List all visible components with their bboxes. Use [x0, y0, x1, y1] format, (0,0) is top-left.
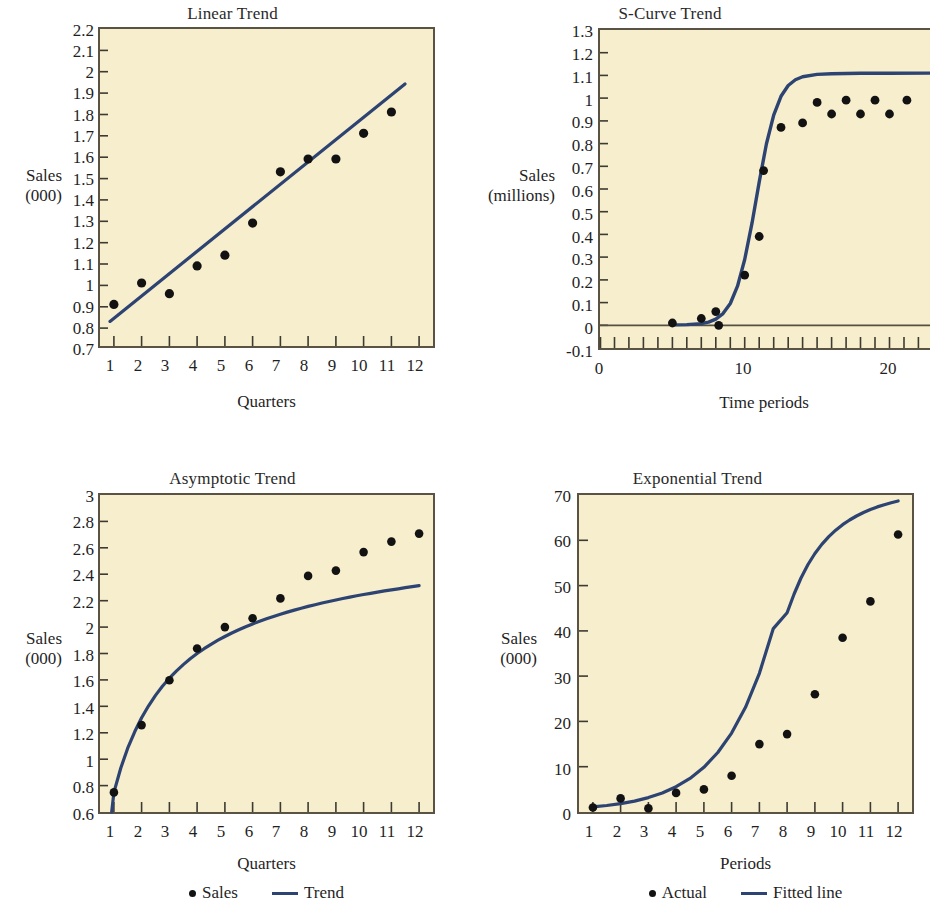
y-tick-label: 1.4	[73, 700, 94, 717]
x-axis-title-asymptotic-trend: Quarters	[98, 854, 435, 874]
y-axis-title-line-1: Sales	[0, 166, 62, 186]
plot-svg-exponential-trend	[579, 495, 912, 812]
plot-svg-asymptotic-trend	[100, 495, 433, 812]
y-tick-marks	[600, 53, 608, 326]
x-tick-label-20: 20	[872, 360, 904, 377]
y-tick-label: 1.2	[73, 726, 94, 743]
legend-label: Actual	[662, 883, 707, 899]
y-tick-label: 0.4	[572, 229, 593, 246]
chart-panel-s-curve-trend: S-Curve Trend Sales (millions) 1.3 1.2 1…	[465, 0, 930, 420]
y-tick-label: 3	[86, 488, 95, 505]
y-tick-label: 0.9	[73, 299, 94, 316]
y-tick-label: 2.2	[73, 594, 94, 611]
legend-label: Sales	[202, 883, 238, 899]
legend-asymptotic-trend: Sales Trend	[98, 883, 435, 899]
y-tick-label: 1.8	[73, 107, 94, 124]
y-tick-label: 10	[554, 761, 571, 778]
chart-title-exponential-trend: Exponential Trend	[465, 469, 930, 489]
legend-exponential-trend: Actual Fitted line	[577, 883, 914, 899]
legend-item-actual: Actual	[649, 883, 707, 899]
y-tick-labels-exponential-trend: 70 60 50 40 30 20 10 0	[537, 455, 571, 899]
x-tick-labels-linear-trend: 1 2 3 4 5 6 7 8 9 10 11 12	[98, 357, 435, 381]
y-tick-label: 1.2	[572, 46, 593, 63]
x-tick-labels-s-curve-trend: 0 10 20	[598, 360, 930, 384]
y-tick-label: -0.1	[566, 343, 593, 360]
x-tick-labels-asymptotic-trend: 1 2 3 4 5 6 7 8 9 10 11 12	[98, 823, 435, 847]
chart-panel-exponential-trend: Exponential Trend Sales (000) 70 60 50 4…	[465, 455, 930, 899]
y-tick-label: 40	[554, 624, 571, 641]
trend-curve	[593, 501, 898, 807]
data-points-sales	[668, 96, 911, 330]
line-marker-icon	[272, 892, 298, 895]
y-axis-title-line-2: (000)	[0, 649, 62, 669]
x-tick-marks	[114, 802, 419, 812]
plot-area-asymptotic-trend	[98, 493, 435, 814]
y-axis-title-linear-trend: Sales (000)	[0, 166, 62, 205]
y-axis-title-s-curve-trend: Sales (millions)	[465, 166, 555, 205]
y-tick-label: 2.6	[73, 541, 94, 558]
y-tick-label: 0.8	[572, 137, 593, 154]
legend-label: Trend	[304, 883, 344, 899]
y-tick-label: 0.8	[73, 320, 94, 337]
line-marker-icon	[741, 892, 767, 895]
legend-label: Fitted line	[773, 883, 842, 899]
y-tick-label: 0.7	[572, 160, 593, 177]
y-tick-label: 1.3	[572, 23, 593, 40]
y-tick-label: 0.5	[572, 206, 593, 223]
y-tick-label: 70	[554, 488, 571, 505]
x-tick-label: 12	[878, 823, 910, 840]
y-tick-labels-linear-trend: 2.2 2.1 2 1.9 1.8 1.7 1.6 1.5 1.4 1.3 1.…	[60, 0, 94, 420]
y-tick-label: 2.1	[73, 43, 94, 60]
x-tick-marks	[593, 802, 898, 812]
trend-line	[110, 84, 405, 321]
data-points-actual	[589, 530, 903, 813]
y-tick-label: 1.6	[73, 149, 94, 166]
plot-svg-s-curve-trend	[600, 30, 930, 348]
y-tick-label: 1	[86, 277, 95, 294]
y-tick-label: 0	[585, 320, 594, 337]
y-tick-label: 1.5	[73, 171, 94, 188]
chart-panel-linear-trend: Linear Trend Sales (000) 2.2 2.1 2 1.9 1…	[0, 0, 465, 420]
y-axis-title-line-2: (000)	[0, 186, 62, 206]
y-tick-label: 1.7	[73, 128, 94, 145]
y-tick-labels-s-curve-trend: 1.3 1.2 1.1 1 0.9 0.8 0.7 0.6 0.5 0.4 0.…	[553, 0, 593, 420]
y-tick-label: 2	[86, 620, 95, 637]
legend-item-sales: Sales	[189, 883, 238, 899]
y-axis-title-line-1: Sales	[465, 166, 555, 186]
chart-panel-asymptotic-trend: Asymptotic Trend Sales (000) 3 2.8 2.6 2…	[0, 455, 465, 899]
y-axis-title-exponential-trend: Sales (000)	[465, 629, 537, 668]
x-axis-title-linear-trend: Quarters	[98, 392, 435, 412]
dot-marker-icon	[649, 890, 656, 897]
x-tick-marks	[601, 337, 919, 348]
y-tick-marks	[100, 521, 108, 785]
y-axis-title-line-2: (millions)	[465, 186, 555, 206]
x-tick-label-10: 10	[727, 360, 759, 377]
y-tick-label: 1.1	[73, 256, 94, 273]
y-tick-label: 0.1	[572, 297, 593, 314]
y-tick-label: 30	[554, 670, 571, 687]
y-tick-label: 0.6	[572, 183, 593, 200]
y-axis-title-line-1: Sales	[0, 629, 62, 649]
y-tick-label: 2.2	[73, 22, 94, 39]
y-tick-label: 1.3	[73, 213, 94, 230]
y-tick-label: 0.8	[73, 779, 94, 796]
y-tick-label: 60	[554, 533, 571, 550]
x-axis-title-s-curve-trend: Time periods	[598, 393, 930, 413]
y-tick-label: 1.8	[73, 647, 94, 664]
y-axis-title-line-2: (000)	[465, 649, 537, 669]
x-tick-marks	[114, 336, 419, 346]
y-tick-label: 1.4	[73, 192, 94, 209]
x-tick-labels-exponential-trend: 1 2 3 4 5 6 7 8 9 10 11 12	[577, 823, 914, 847]
y-tick-label: 1.6	[73, 673, 94, 690]
plot-svg-linear-trend	[100, 29, 433, 346]
y-tick-label: 0	[563, 806, 572, 823]
y-tick-label: 0.2	[572, 274, 593, 291]
plot-area-s-curve-trend	[598, 28, 930, 350]
x-tick-label: 12	[399, 357, 431, 374]
y-tick-label: 50	[554, 579, 571, 596]
y-tick-label: 0.9	[572, 114, 593, 131]
y-tick-marks	[100, 50, 108, 328]
y-tick-label: 1	[86, 753, 95, 770]
y-tick-label: 2.4	[73, 567, 94, 584]
y-tick-label: 1	[585, 92, 594, 109]
